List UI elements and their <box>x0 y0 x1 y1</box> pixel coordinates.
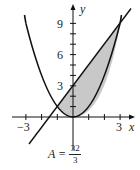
area-fraction: 32 3 <box>69 144 81 165</box>
y-tick-label-3: 3 <box>57 79 63 93</box>
y-axis-label: y <box>79 2 86 16</box>
x-tick-label-neg3: −3 <box>17 120 30 134</box>
area-numerator: 32 <box>71 144 80 153</box>
y-tick-label-6: 6 <box>57 48 63 62</box>
x-tick-label-3: 3 <box>116 120 122 134</box>
shaded-region <box>57 23 120 117</box>
area-denominator: 3 <box>73 156 78 165</box>
y-tick-label-9: 9 <box>57 17 63 31</box>
x-axis-label: x <box>128 120 135 134</box>
area-prefix: A = <box>48 147 66 162</box>
y-axis-arrow-icon <box>71 4 76 10</box>
x-axis-arrow-icon <box>129 115 135 120</box>
area-annotation: A = 32 3 <box>48 144 108 165</box>
